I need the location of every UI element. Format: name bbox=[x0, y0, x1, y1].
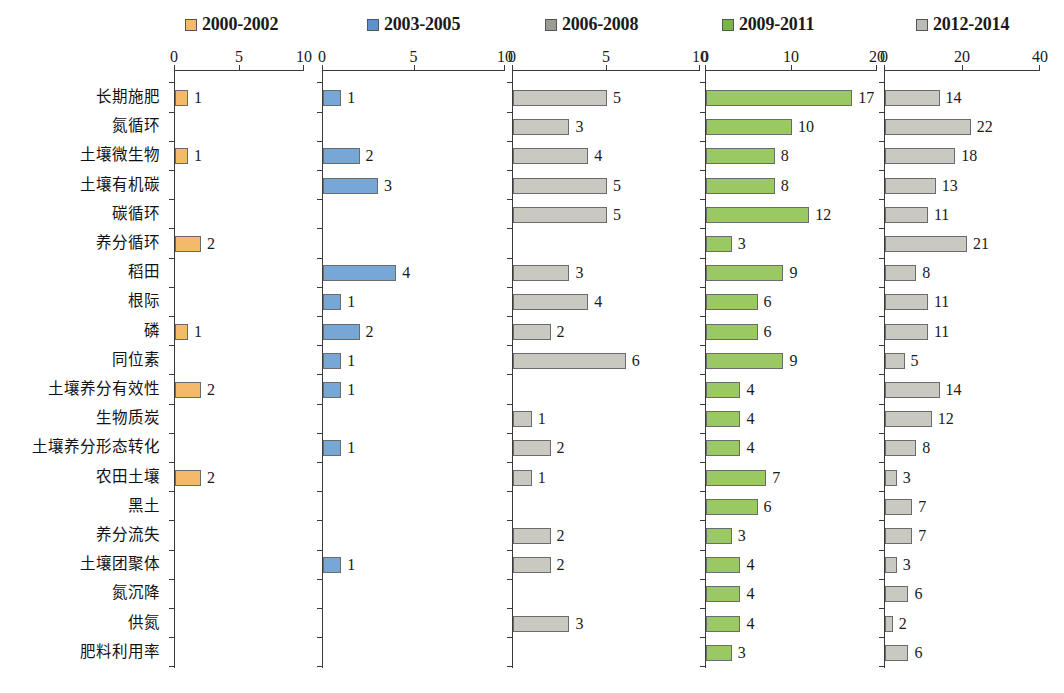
bar[interactable] bbox=[323, 178, 378, 194]
bar[interactable] bbox=[706, 294, 758, 310]
bar[interactable] bbox=[513, 616, 569, 632]
bar-row[interactable]: 2 bbox=[513, 323, 565, 341]
legend-item-2000-2002[interactable]: 2000-2002 bbox=[185, 14, 278, 35]
bar-row[interactable]: 18 bbox=[885, 147, 977, 165]
bar[interactable] bbox=[513, 119, 569, 135]
bar[interactable] bbox=[706, 557, 740, 573]
bar-row[interactable]: 4 bbox=[706, 410, 754, 428]
bar-row[interactable]: 4 bbox=[513, 147, 602, 165]
bar-row[interactable]: 5 bbox=[885, 352, 919, 370]
bar[interactable] bbox=[706, 586, 740, 602]
bar[interactable] bbox=[323, 353, 341, 369]
bar-row[interactable]: 1 bbox=[323, 293, 355, 311]
bar-row[interactable]: 9 bbox=[706, 352, 797, 370]
bar[interactable] bbox=[513, 353, 626, 369]
legend-item-2009-2011[interactable]: 2009-2011 bbox=[722, 14, 814, 35]
bar-row[interactable]: 17 bbox=[706, 89, 874, 107]
bar-row[interactable]: 8 bbox=[706, 177, 789, 195]
bar-row[interactable]: 5 bbox=[513, 177, 621, 195]
bar[interactable] bbox=[706, 265, 783, 281]
bar[interactable] bbox=[175, 324, 188, 340]
bar[interactable] bbox=[323, 148, 360, 164]
bar[interactable] bbox=[885, 586, 908, 602]
bar[interactable] bbox=[175, 148, 188, 164]
bar[interactable] bbox=[885, 411, 932, 427]
bar-row[interactable]: 6 bbox=[513, 352, 640, 370]
bar[interactable] bbox=[513, 207, 607, 223]
bar[interactable] bbox=[885, 557, 897, 573]
bar[interactable] bbox=[513, 411, 532, 427]
bar-row[interactable]: 7 bbox=[885, 498, 926, 516]
bar-row[interactable]: 3 bbox=[513, 615, 583, 633]
bar-row[interactable]: 8 bbox=[706, 147, 789, 165]
bar-row[interactable]: 2 bbox=[513, 556, 565, 574]
bar[interactable] bbox=[885, 119, 971, 135]
bar-row[interactable]: 6 bbox=[706, 323, 772, 341]
bar-row[interactable]: 4 bbox=[706, 439, 754, 457]
bar[interactable] bbox=[513, 324, 551, 340]
bar[interactable] bbox=[885, 353, 905, 369]
bar-row[interactable]: 14 bbox=[885, 89, 962, 107]
bar[interactable] bbox=[885, 499, 912, 515]
bar[interactable] bbox=[885, 528, 912, 544]
bar-row[interactable]: 2 bbox=[513, 527, 565, 545]
bar-row[interactable]: 2 bbox=[323, 323, 374, 341]
bar-row[interactable]: 11 bbox=[885, 323, 949, 341]
bar-row[interactable]: 3 bbox=[513, 118, 583, 136]
bar-row[interactable]: 13 bbox=[885, 177, 958, 195]
bar[interactable] bbox=[706, 324, 758, 340]
bar-row[interactable]: 22 bbox=[885, 118, 993, 136]
bar-row[interactable]: 1 bbox=[175, 147, 202, 165]
bar[interactable] bbox=[513, 557, 551, 573]
bar-row[interactable]: 6 bbox=[706, 293, 772, 311]
bar[interactable] bbox=[885, 470, 897, 486]
bar-row[interactable]: 14 bbox=[885, 381, 962, 399]
bar-row[interactable]: 11 bbox=[885, 206, 949, 224]
bar[interactable] bbox=[885, 294, 928, 310]
bar-row[interactable]: 12 bbox=[885, 410, 954, 428]
bar[interactable] bbox=[706, 178, 775, 194]
bar[interactable] bbox=[513, 265, 569, 281]
bar-row[interactable]: 21 bbox=[885, 235, 989, 253]
bar-row[interactable]: 1 bbox=[323, 556, 355, 574]
bar-row[interactable]: 2 bbox=[885, 615, 907, 633]
bar[interactable] bbox=[323, 324, 360, 340]
bar[interactable] bbox=[175, 236, 201, 252]
bar[interactable] bbox=[885, 382, 940, 398]
bar[interactable] bbox=[706, 207, 809, 223]
bar-row[interactable]: 1 bbox=[323, 439, 355, 457]
bar-row[interactable]: 2 bbox=[513, 439, 565, 457]
bar[interactable] bbox=[706, 382, 740, 398]
bar-row[interactable]: 1 bbox=[175, 89, 202, 107]
bar-row[interactable]: 1 bbox=[175, 323, 202, 341]
bar-row[interactable]: 11 bbox=[885, 293, 949, 311]
bar[interactable] bbox=[706, 353, 783, 369]
bar[interactable] bbox=[885, 645, 908, 661]
bar-row[interactable]: 6 bbox=[885, 585, 922, 603]
bar[interactable] bbox=[323, 557, 341, 573]
bar-row[interactable]: 12 bbox=[706, 206, 831, 224]
bar[interactable] bbox=[323, 440, 341, 456]
bar[interactable] bbox=[706, 645, 732, 661]
bar-row[interactable]: 3 bbox=[706, 644, 746, 662]
bar[interactable] bbox=[513, 440, 551, 456]
bar[interactable] bbox=[513, 528, 551, 544]
bar-row[interactable]: 5 bbox=[513, 206, 621, 224]
bar[interactable] bbox=[706, 148, 775, 164]
bar-row[interactable]: 7 bbox=[885, 527, 926, 545]
bar-row[interactable]: 1 bbox=[513, 410, 546, 428]
bar[interactable] bbox=[175, 470, 201, 486]
bar-row[interactable]: 2 bbox=[175, 469, 215, 487]
bar-row[interactable]: 3 bbox=[885, 556, 911, 574]
bar-row[interactable]: 6 bbox=[885, 644, 922, 662]
bar[interactable] bbox=[175, 90, 188, 106]
bar-row[interactable]: 3 bbox=[706, 235, 746, 253]
bar[interactable] bbox=[885, 207, 928, 223]
bar[interactable] bbox=[323, 294, 341, 310]
bar[interactable] bbox=[513, 178, 607, 194]
bar-row[interactable]: 5 bbox=[513, 89, 621, 107]
legend-item-2006-2008[interactable]: 2006-2008 bbox=[545, 14, 638, 35]
bar-row[interactable]: 3 bbox=[513, 264, 583, 282]
bar[interactable] bbox=[706, 616, 740, 632]
bar-row[interactable]: 10 bbox=[706, 118, 814, 136]
